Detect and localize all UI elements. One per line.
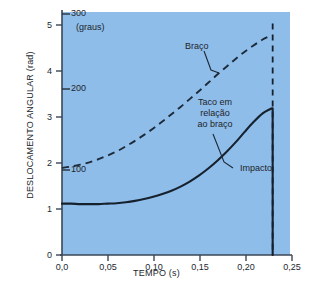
x-tick-label-0: 0,0 bbox=[44, 262, 80, 272]
x-tick-marks bbox=[62, 255, 292, 261]
x-tick-label-2: 0,10 bbox=[136, 262, 172, 272]
y-tick-label-5: 5 bbox=[30, 20, 52, 30]
y-axis-title: DESLOCAMENTO ANGULAR (rad) bbox=[25, 25, 35, 225]
y-tick-label-1: 1 bbox=[30, 204, 52, 214]
taco-annotation-line3: ao braço bbox=[186, 119, 244, 130]
degree-tick-label-200: 200 bbox=[71, 83, 86, 93]
degree-unit-label: (graus) bbox=[76, 22, 105, 32]
chart-figure: DESLOCAMENTO ANGULAR (rad) TEMPO (s) 0 1… bbox=[0, 0, 313, 286]
degree-tick-label-300: 300 bbox=[71, 8, 86, 18]
x-tick-label-1: 0,05 bbox=[90, 262, 126, 272]
y-tick-label-4: 4 bbox=[30, 66, 52, 76]
taco-annotation: Taco em relação ao braço bbox=[186, 97, 244, 130]
x-tick-label-3: 0,15 bbox=[182, 262, 218, 272]
taco-annotation-line1: Taco em bbox=[186, 97, 244, 108]
y-tick-marks bbox=[56, 25, 62, 255]
y-tick-label-0: 0 bbox=[30, 250, 52, 260]
chart-plot-area bbox=[0, 0, 313, 286]
x-tick-label-5: 0,25 bbox=[274, 262, 310, 272]
taco-annotation-line2: relação bbox=[186, 108, 244, 119]
y-tick-label-3: 3 bbox=[30, 112, 52, 122]
y-tick-label-2: 2 bbox=[30, 158, 52, 168]
plot-background bbox=[62, 12, 290, 255]
degree-tick-label-100: 100 bbox=[71, 164, 86, 174]
impacto-annotation: Impacto bbox=[240, 163, 272, 174]
x-tick-label-4: 0,20 bbox=[228, 262, 264, 272]
braco-annotation: Braço bbox=[185, 41, 209, 52]
